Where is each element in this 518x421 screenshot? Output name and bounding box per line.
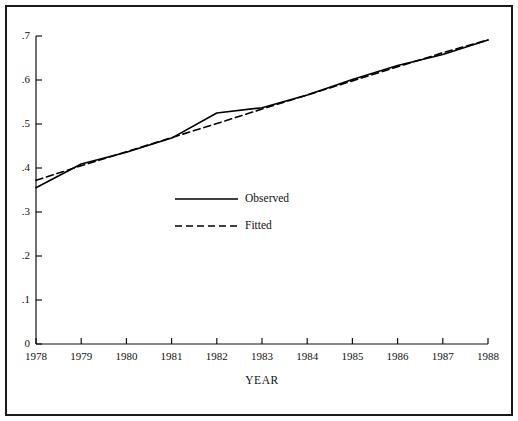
x-axis-tick-label: 1984 xyxy=(285,350,329,362)
x-axis-tick-label: 1980 xyxy=(104,350,148,362)
x-axis-title: YEAR xyxy=(202,374,322,386)
legend-label-observed: Observed xyxy=(245,192,289,204)
axes xyxy=(36,36,488,344)
y-axis-tick-label: .4 xyxy=(4,161,30,173)
chart-figure: 0.1.2.3.4.5.6.7 197819791980198119821983… xyxy=(0,0,518,421)
y-axis-tick-label: 0 xyxy=(4,337,30,349)
x-axis-tick-label: 1983 xyxy=(240,350,284,362)
x-axis-tick-label: 1988 xyxy=(466,350,510,362)
y-axis-tick-label: .3 xyxy=(4,205,30,217)
x-axis-tick-label: 1986 xyxy=(376,350,420,362)
x-axis-ticks xyxy=(36,338,488,344)
legend-swatches xyxy=(175,199,238,226)
x-axis-tick-label: 1978 xyxy=(14,350,58,362)
y-axis-tick-label: .7 xyxy=(4,29,30,41)
y-axis-tick-label: .2 xyxy=(4,249,30,261)
x-axis-tick-label: 1981 xyxy=(150,350,194,362)
data-series xyxy=(36,40,488,188)
y-axis-tick-label: .6 xyxy=(4,73,30,85)
x-axis-tick-label: 1982 xyxy=(195,350,239,362)
x-axis-tick-label: 1979 xyxy=(59,350,103,362)
y-axis-tick-label: .1 xyxy=(4,293,30,305)
legend-label-fitted: Fitted xyxy=(245,219,272,231)
y-axis-tick-label: .5 xyxy=(4,117,30,129)
x-axis-tick-label: 1985 xyxy=(330,350,374,362)
y-axis-ticks xyxy=(36,36,42,344)
x-axis-tick-label: 1987 xyxy=(421,350,465,362)
series-line-fitted xyxy=(36,40,488,180)
series-line-observed xyxy=(36,40,488,188)
